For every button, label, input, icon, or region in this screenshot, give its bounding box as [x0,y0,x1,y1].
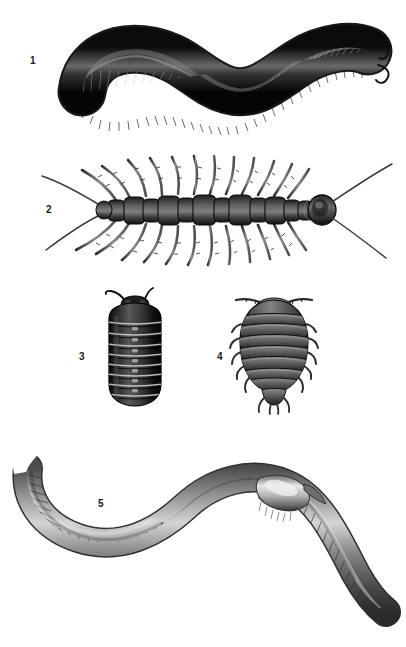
centipede-head [304,195,336,225]
figure-3-pill-millipede [95,288,175,413]
centipede-trunk-segments [108,195,313,225]
figure-label-1: 1 [30,56,36,66]
figure-1-giant-millipede [60,18,400,133]
figure-label-2: 2 [46,205,52,215]
centipede-legs-lower [76,220,306,265]
illustration-plate: 1 [0,0,406,647]
figure-label-3: 3 [79,352,85,362]
figure-label-4: 4 [217,352,223,362]
figure-4-woodlouse [228,292,320,414]
centipede-antennae [332,164,392,258]
figure-5-smooth-millipede [8,440,400,635]
centipede-legs-upper [82,156,309,200]
woodlouse-uropods [259,389,290,415]
woodlouse-tergites [229,314,319,393]
centipede-tail-segment [96,201,112,219]
figure-2-centipede [20,150,406,270]
figure-label-5: 5 [98,499,104,509]
